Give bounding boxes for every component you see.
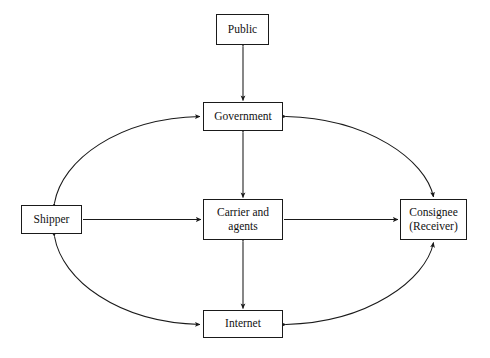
node-government-label: Government xyxy=(211,110,274,123)
node-carrier-and-agents-label: Carrier and agents xyxy=(214,206,272,232)
connector-shipper-government-arc xyxy=(55,117,201,204)
node-government[interactable]: Government xyxy=(203,102,283,131)
node-consignee-receiver[interactable]: Consignee (Receiver) xyxy=(400,199,467,240)
diagram-root: Public Government Carrier and agents Int… xyxy=(0,0,490,358)
node-public[interactable]: Public xyxy=(216,14,269,45)
node-shipper[interactable]: Shipper xyxy=(21,205,82,234)
node-internet-label: Internet xyxy=(222,317,264,330)
node-shipper-label: Shipper xyxy=(31,213,73,226)
diagram-connections-canvas xyxy=(0,0,490,358)
node-consignee-receiver-label: Consignee (Receiver) xyxy=(406,206,461,232)
connector-government-consignee-arc xyxy=(286,117,434,198)
node-internet[interactable]: Internet xyxy=(203,310,283,338)
node-public-label: Public xyxy=(225,23,260,36)
connector-shipper-internet-arc xyxy=(55,237,201,325)
node-carrier-and-agents[interactable]: Carrier and agents xyxy=(203,199,283,240)
connector-internet-consignee-arc xyxy=(286,243,434,325)
